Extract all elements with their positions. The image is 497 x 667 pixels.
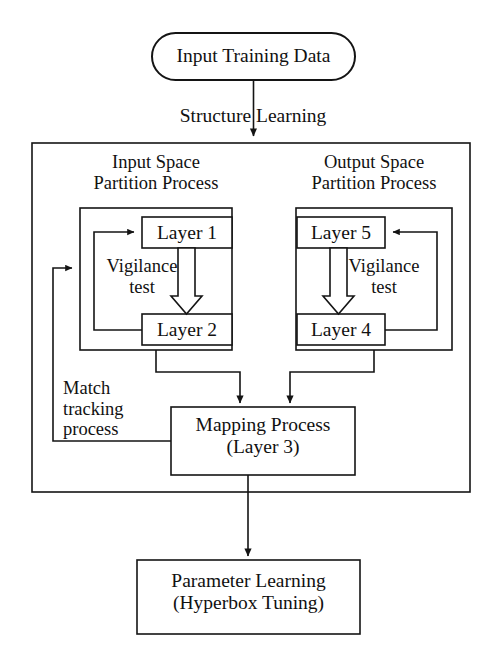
node-vigilance-test-right-label: Vigilance test [336,256,432,298]
diagram-canvas: Input Training Data Structure Learning I… [0,0,497,667]
node-match-tracking-process-label: Match tracking process [63,378,173,440]
diagram-vector-layer [0,0,497,667]
node-vigilance-test-left-label: Vigilance test [96,256,188,298]
group-output-space-partition-label: Output Space Partition Process [278,152,470,194]
node-mapping-process-label: Mapping Process (Layer 3) [171,414,355,458]
edge-structure-learning-label: Structure Learning [128,105,378,127]
node-parameter-learning-label: Parameter Learning (Hyperbox Tuning) [137,570,360,614]
edge-output-space-to-mapping [290,350,374,403]
node-layer1-label: Layer 1 [142,222,232,244]
node-layer2-label: Layer 2 [142,319,232,341]
node-layer5-label: Layer 5 [297,222,385,244]
group-input-space-partition-label: Input Space Partition Process [66,152,246,194]
node-layer4-label: Layer 4 [297,319,385,341]
node-input-training-data-label: Input Training Data [152,45,355,67]
